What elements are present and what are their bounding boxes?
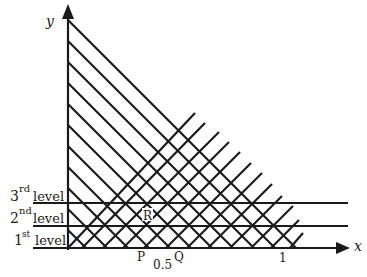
y-axis-arrow-icon: [62, 4, 74, 19]
svg-text:2: 2: [10, 210, 19, 226]
point-p-label: P: [137, 250, 145, 264]
svg-text:3: 3: [10, 188, 19, 204]
lattice-diagram: y x 0.5 1 P Q R 3 rd level 2 nd level 1 …: [0, 0, 367, 277]
svg-text:rd: rd: [19, 183, 31, 194]
tick-one: 1: [279, 251, 287, 265]
descending-lines: [68, 20, 296, 248]
svg-text:nd: nd: [19, 205, 32, 216]
svg-text:level: level: [35, 233, 66, 248]
y-axis-label: y: [45, 13, 55, 29]
level-1-label: 1 st level: [14, 229, 66, 248]
svg-text:level: level: [33, 189, 64, 204]
point-r-label: R: [143, 209, 153, 223]
tick-half: 0.5: [153, 258, 172, 272]
level-2-label: 2 nd level: [10, 205, 64, 226]
x-axis-label: x: [354, 238, 362, 254]
svg-text:level: level: [33, 211, 64, 226]
point-q-label: Q: [174, 250, 184, 264]
svg-text:st: st: [22, 229, 31, 239]
x-axis-arrow-icon: [336, 242, 350, 254]
level-3-label: 3 rd level: [10, 183, 64, 204]
